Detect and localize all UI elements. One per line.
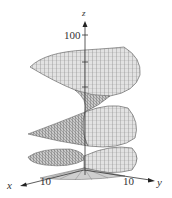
x-axis-label: x (7, 180, 12, 191)
helicoid-surface (0, 0, 172, 198)
y-axis-label: y (157, 177, 162, 188)
surface-middle-left-fin (28, 112, 88, 146)
surface-lower-right-lobe (84, 147, 137, 173)
z-tick-label: 100 (64, 30, 81, 41)
surface-plot-figure: z 100 x 10 10 y (0, 0, 172, 198)
x-tick-label: 10 (40, 176, 51, 187)
z-axis-label: z (82, 9, 86, 18)
y-axis-arrow-icon (148, 178, 155, 183)
x-axis-arrow-icon (20, 183, 27, 187)
z-axis-arrow-icon (83, 21, 88, 27)
y-tick-label: 10 (123, 176, 134, 187)
surface-lower-left-disc (28, 149, 84, 166)
surface-middle-right-lobe (83, 106, 136, 147)
